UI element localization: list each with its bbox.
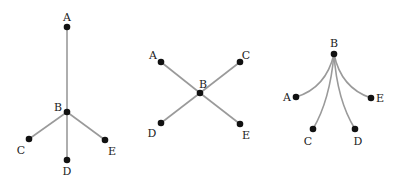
edge-b-e	[67, 112, 105, 140]
label-c: C	[17, 144, 25, 157]
label-c: C	[242, 49, 250, 62]
diagram-3: B A E C D	[282, 37, 384, 148]
edge-b-c	[29, 112, 67, 139]
node-e	[102, 137, 109, 144]
label-e: E	[108, 145, 116, 158]
edge-a-b	[161, 62, 200, 93]
node-d	[64, 157, 71, 164]
label-a: A	[62, 11, 72, 24]
node-d	[158, 120, 165, 127]
label-d: D	[354, 135, 363, 148]
edge-b-e	[200, 93, 240, 124]
node-e	[237, 121, 244, 128]
label-d: D	[148, 127, 157, 140]
diagram-1: A B C D E	[17, 11, 116, 178]
label-b: B	[330, 37, 338, 50]
node-b	[331, 51, 338, 58]
node-c	[26, 136, 33, 143]
node-a	[293, 94, 300, 101]
label-e: E	[242, 129, 250, 142]
node-a	[158, 59, 165, 66]
label-e: E	[376, 92, 384, 105]
label-d: D	[63, 165, 72, 178]
node-a	[64, 24, 71, 31]
diagram-canvas: A B C D E A C B D E B A E C D	[0, 0, 401, 179]
label-b: B	[54, 101, 62, 114]
label-c: C	[304, 135, 312, 148]
diagram-2: A C B D E	[148, 49, 251, 142]
edge-b-d	[161, 93, 200, 123]
node-d	[352, 126, 359, 133]
node-c	[310, 126, 317, 133]
node-e	[368, 95, 375, 102]
node-b	[64, 109, 71, 116]
label-b: B	[199, 78, 207, 91]
label-a: A	[282, 91, 292, 104]
label-a: A	[148, 49, 158, 62]
